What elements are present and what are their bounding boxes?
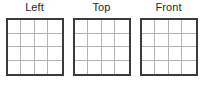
grid-cell[interactable] bbox=[21, 61, 35, 75]
grid-cell[interactable] bbox=[102, 20, 116, 34]
grid-cell[interactable] bbox=[115, 47, 129, 61]
grid-cell[interactable] bbox=[48, 47, 62, 61]
grid-cell[interactable] bbox=[8, 61, 22, 75]
grid-cell[interactable] bbox=[169, 61, 183, 75]
grid-cell[interactable] bbox=[142, 61, 156, 75]
grid-cell[interactable] bbox=[155, 20, 169, 34]
grid-cell[interactable] bbox=[102, 47, 116, 61]
grid-cell[interactable] bbox=[48, 61, 62, 75]
grid-cell[interactable] bbox=[102, 61, 116, 75]
grid-cell[interactable] bbox=[88, 61, 102, 75]
grid-cell[interactable] bbox=[155, 47, 169, 61]
grid-front bbox=[140, 18, 198, 76]
grid-cell[interactable] bbox=[115, 20, 129, 34]
grid-cell[interactable] bbox=[182, 20, 196, 34]
grid-cell[interactable] bbox=[88, 47, 102, 61]
grid-cell[interactable] bbox=[35, 47, 49, 61]
grid-cell[interactable] bbox=[155, 61, 169, 75]
grid-cell[interactable] bbox=[182, 47, 196, 61]
grid-cell[interactable] bbox=[8, 47, 22, 61]
grid-cell[interactable] bbox=[8, 34, 22, 48]
view-label-front: Front bbox=[155, 1, 181, 14]
view-panel-top: Top bbox=[73, 1, 131, 76]
grid-cell[interactable] bbox=[21, 34, 35, 48]
grid-cell[interactable] bbox=[102, 34, 116, 48]
grid-left bbox=[6, 18, 64, 76]
grid-cell[interactable] bbox=[142, 34, 156, 48]
grid-cell[interactable] bbox=[21, 47, 35, 61]
grid-cell[interactable] bbox=[115, 61, 129, 75]
view-label-left: Left bbox=[25, 1, 44, 14]
grid-cell[interactable] bbox=[182, 34, 196, 48]
grid-cell[interactable] bbox=[75, 34, 89, 48]
grid-cell[interactable] bbox=[35, 34, 49, 48]
grid-cell[interactable] bbox=[75, 61, 89, 75]
grid-cell[interactable] bbox=[88, 20, 102, 34]
view-label-top: Top bbox=[92, 1, 110, 14]
grid-cell[interactable] bbox=[169, 47, 183, 61]
grid-cell[interactable] bbox=[21, 20, 35, 34]
grid-cell[interactable] bbox=[155, 34, 169, 48]
grid-cell[interactable] bbox=[142, 47, 156, 61]
grid-cell[interactable] bbox=[169, 34, 183, 48]
grid-cell[interactable] bbox=[115, 34, 129, 48]
view-panel-front: Front bbox=[140, 1, 198, 76]
grid-cell[interactable] bbox=[142, 20, 156, 34]
grid-cell[interactable] bbox=[75, 47, 89, 61]
grid-cell[interactable] bbox=[35, 61, 49, 75]
grid-cell[interactable] bbox=[169, 20, 183, 34]
grid-cell[interactable] bbox=[75, 20, 89, 34]
grid-cell[interactable] bbox=[48, 34, 62, 48]
grid-cell[interactable] bbox=[35, 20, 49, 34]
grid-cell[interactable] bbox=[8, 20, 22, 34]
grid-cell[interactable] bbox=[48, 20, 62, 34]
grid-cell[interactable] bbox=[182, 61, 196, 75]
grid-cell[interactable] bbox=[88, 34, 102, 48]
view-panel-left: Left bbox=[6, 1, 64, 76]
orthographic-views-container: LeftTopFront bbox=[0, 0, 203, 89]
grid-top bbox=[73, 18, 131, 76]
